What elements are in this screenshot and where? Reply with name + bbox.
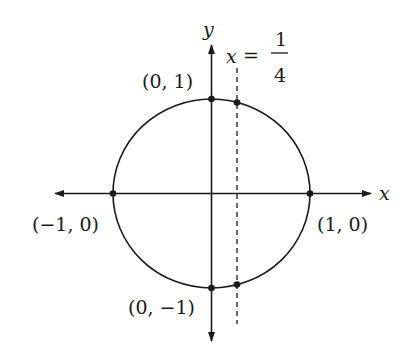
line-label-eq: = (243, 44, 259, 66)
label-1-0: (1, 0) (317, 213, 368, 235)
point-intersection-bottom (234, 281, 241, 288)
point-1-0 (307, 190, 314, 197)
label-neg1-0: (−1, 0) (32, 213, 99, 235)
point-intersection-top (234, 99, 241, 106)
point-0-neg1 (208, 285, 215, 292)
unit-circle-diagram: y x x = 1 4 (0, 1) (−1, 0) (1, 0) (0, −1… (0, 0, 405, 346)
point-0-1 (208, 96, 215, 103)
y-axis-label: y (202, 18, 214, 40)
line-label-denominator: 4 (274, 64, 286, 86)
line-label-numerator: 1 (275, 28, 287, 50)
label-0-1: (0, 1) (142, 70, 193, 92)
label-0-neg1: (0, −1) (128, 296, 195, 318)
line-label-lhs: x (226, 45, 237, 67)
point-neg1-0 (110, 190, 117, 197)
x-axis-label: x (379, 182, 390, 204)
